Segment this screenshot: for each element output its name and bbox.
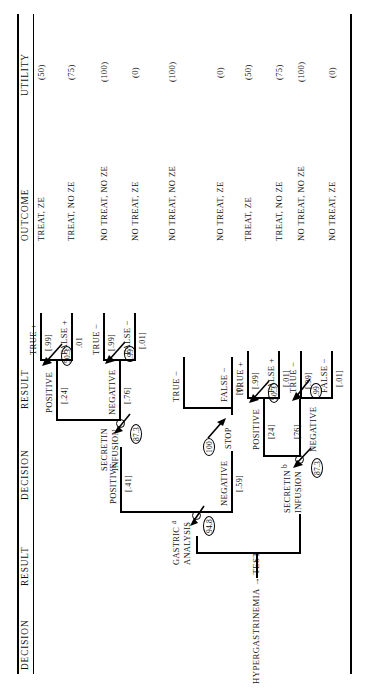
secretin-top-negative-label: NEGATIVE — [107, 370, 117, 415]
secretin-bottom-negative-prob: [76] — [293, 424, 302, 439]
outcome-8: TREAT, NO ZE — [274, 181, 284, 241]
result-label-5: TRUE − — [171, 370, 181, 402]
fork-e-upper — [300, 351, 302, 399]
utility-8: (75) — [274, 64, 284, 80]
stop-true-arm — [183, 357, 185, 409]
result-prob-7: [.99] — [251, 372, 260, 389]
secretin-top-split-vertical — [56, 420, 120, 422]
result-label-1: TRUE + — [28, 323, 38, 355]
utility-10: (0) — [327, 67, 337, 78]
utility-5: (100) — [167, 62, 177, 82]
bottom-rule — [350, 14, 352, 674]
fork-e-vertical — [300, 398, 332, 400]
fork-b-vertical — [103, 360, 135, 362]
fork-a-vertical — [40, 360, 72, 362]
outcome-9: NO TREAT, NO ZE — [296, 166, 306, 241]
column-header-decision-2: DECISION — [20, 449, 30, 500]
fork-b-lower — [134, 313, 136, 361]
stop-split-vertical — [183, 408, 232, 410]
utility-1: (50) — [36, 64, 46, 80]
secretin-bottom-positive-prob: [24] — [267, 424, 276, 439]
result-label-2: FALSE + — [59, 320, 69, 355]
result-prob-4: [.01] — [138, 332, 147, 349]
column-header-utility: UTILITY — [20, 53, 30, 96]
fork-b-upper — [103, 313, 105, 361]
gastric-positive-prob: [.41] — [124, 475, 133, 492]
result-prob-9: [.99] — [304, 372, 313, 389]
outcome-2: TREAT, NO ZE — [66, 181, 76, 241]
column-header-result-2: RESULT — [20, 369, 30, 409]
gastric-analysis-arrow — [190, 502, 206, 528]
fork-d-vertical — [247, 398, 279, 400]
fork-d-lower — [278, 351, 280, 399]
result-label-8: FALSE + — [266, 358, 276, 393]
outcome-5: NO TREAT, NO ZE — [167, 166, 177, 241]
secretin-bottom-split-vertical — [263, 456, 299, 458]
stop-false-arm — [231, 357, 233, 409]
root-split-vertical — [196, 553, 300, 555]
outcome-10: NO TREAT, ZE — [327, 182, 337, 242]
fork-a-upper — [40, 313, 42, 361]
result-label-7: TRUE + — [235, 361, 245, 393]
secretin-bottom-negative-label: NEGATIVE — [308, 407, 318, 452]
top-rule — [17, 14, 19, 674]
result-label-10: FALSE − — [319, 358, 329, 393]
fork-a-lower — [71, 313, 73, 361]
result-label-3: TRUE − — [91, 323, 101, 355]
gastric-negative-label: NEGATIVE — [219, 461, 229, 506]
gastric-analysis-label-line1: GASTRIC — [172, 527, 181, 565]
outcome-7: TREAT, ZE — [243, 197, 253, 241]
gastric-positive-arm — [120, 447, 122, 513]
column-header-result-1: RESULT — [20, 546, 30, 586]
outcome-6: NO TREAT, ZE — [215, 182, 225, 242]
column-header-decision-1: DECISION — [20, 619, 30, 670]
secretin-bottom-positive-label: POSITIVE — [251, 409, 261, 450]
secretin-top-positive-label: POSITIVE — [44, 372, 54, 413]
outcome-3: NO TREAT, NO ZE — [99, 166, 109, 241]
gastric-analysis-superscript: a — [169, 520, 178, 524]
result-prob-10: [.01] — [335, 370, 344, 387]
result-label-6: FALSE − — [219, 367, 229, 402]
gastric-split-vertical — [120, 512, 232, 514]
secretin-top-label-line1: SECRETIN — [100, 428, 109, 471]
secretin-top-positive-prob: [.24] — [60, 387, 69, 404]
secretin-bottom-positive-arm — [263, 399, 265, 457]
utility-4: (0) — [130, 67, 140, 78]
result-prob-2: .01 — [75, 337, 84, 348]
utility-2: (75) — [66, 64, 76, 80]
secretin-top-negative-arm — [119, 361, 121, 421]
fork-e-lower — [331, 351, 333, 399]
fork-d-upper — [247, 351, 249, 399]
result-label-4: FALSE − — [122, 320, 132, 355]
column-header-outcome: OUTCOME — [20, 189, 30, 241]
utility-9: (100) — [296, 62, 306, 82]
root-trunk — [256, 554, 258, 578]
result-label-9: TRUE − — [288, 361, 298, 393]
root-to-gastric — [196, 536, 198, 554]
utility-3: (100) — [99, 62, 109, 82]
result-prob-3: [.99] — [107, 334, 116, 351]
secretin-bottom-label-line2: INFUSION — [294, 471, 303, 513]
outcome-4: NO TREAT, ZE — [130, 182, 140, 242]
secretin-bottom-superscript: b — [280, 464, 289, 468]
stop-stem — [231, 409, 233, 415]
utility-7: (50) — [243, 64, 253, 80]
secretin-top-positive-arm — [56, 361, 58, 421]
gastric-analysis-label-line2: ANALYSIS — [183, 522, 192, 565]
gastric-negative-arm — [231, 451, 233, 513]
utility-6: (0) — [215, 67, 225, 78]
outcome-1: TREAT, ZE — [36, 197, 46, 241]
gastric-negative-prob: [.59] — [235, 475, 244, 492]
figure-canvas: DECISION RESULT DECISION RESULT OUTCOME … — [0, 0, 368, 696]
root-to-secretin-bottom — [299, 514, 301, 554]
secretin-bottom-label-line1: SECRETIN — [283, 470, 292, 513]
stop-arrow — [206, 416, 226, 442]
result-prob-1: [.99] — [44, 334, 53, 351]
secretin-top-negative-prob: [.76] — [123, 387, 132, 404]
